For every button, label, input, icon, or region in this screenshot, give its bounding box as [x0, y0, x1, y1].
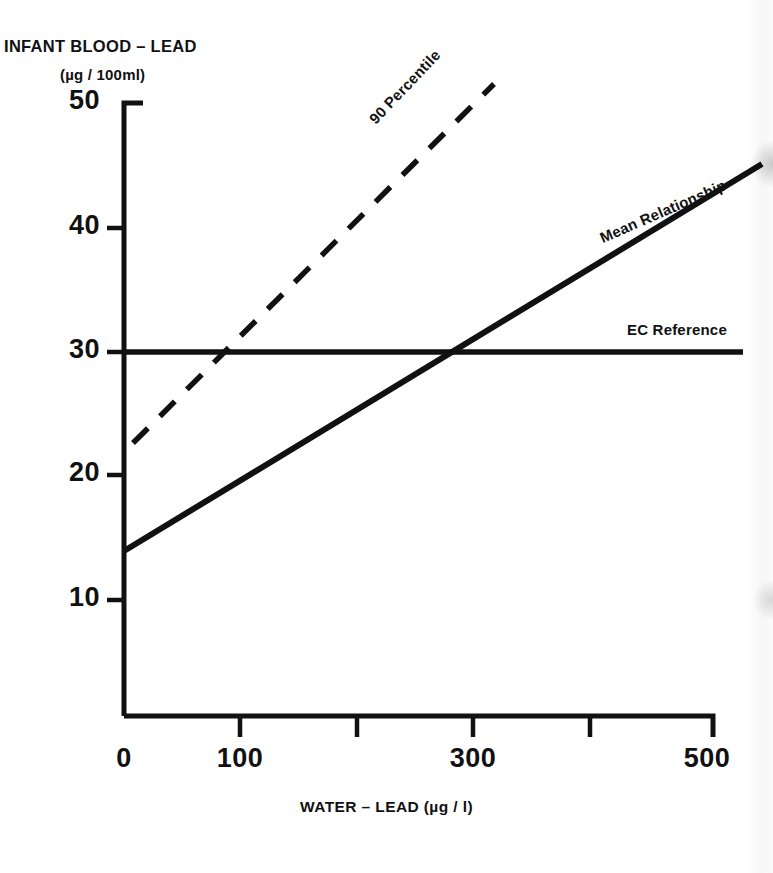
y-axis-spine [124, 103, 143, 716]
y-tick-label-50: 50 [28, 85, 100, 116]
x-axis-ticks [240, 716, 590, 737]
chart-figure: INFANT BLOOD – LEAD (µg / 100ml) 50 4 [0, 0, 773, 873]
series-line-90-percentile [133, 84, 494, 443]
x-tick-label-500: 500 [652, 743, 762, 774]
y-tick-label-30: 30 [28, 334, 100, 365]
y-axis-ticks [107, 228, 124, 600]
x-axis-spine [124, 716, 713, 737]
x-tick-label-100: 100 [185, 743, 295, 774]
x-tick-label-0: 0 [69, 743, 179, 774]
x-tick-label-300: 300 [418, 743, 528, 774]
y-tick-label-10: 10 [28, 582, 100, 613]
series-label-ec-reference: EC Reference [627, 321, 727, 338]
y-tick-label-40: 40 [28, 210, 100, 241]
y-tick-label-20: 20 [28, 457, 100, 488]
x-axis-title: WATER – LEAD (µg / l) [0, 798, 773, 816]
